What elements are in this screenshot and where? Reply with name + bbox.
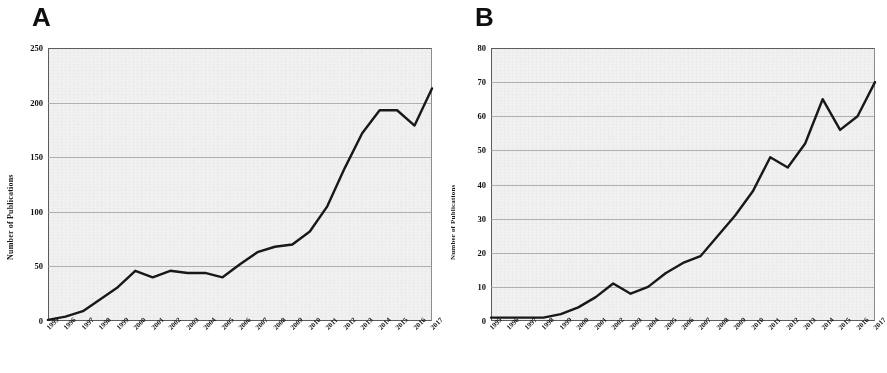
panel-a-y-axis-title: Number of Publications xyxy=(6,110,15,260)
panel-b-y-tick-20: 20 xyxy=(443,248,486,258)
panel-a-label: A xyxy=(32,2,51,33)
panel-b-series-line xyxy=(491,48,875,321)
panel-a-y-tick-50: 50 xyxy=(0,261,43,271)
panel-a-y-tick-200: 200 xyxy=(0,98,43,108)
panel-b: B Number of Publications 010203040506070… xyxy=(443,0,886,373)
panel-b-y-tick-0: 0 xyxy=(443,316,486,326)
panel-b-plot xyxy=(491,48,875,321)
panel-a-y-tick-250: 250 xyxy=(0,43,43,53)
panel-b-y-tick-40: 40 xyxy=(443,180,486,190)
panel-a-plot xyxy=(48,48,432,321)
panel-a-y-tick-150: 150 xyxy=(0,152,43,162)
panel-b-y-tick-70: 70 xyxy=(443,77,486,87)
panel-b-y-tick-60: 60 xyxy=(443,111,486,121)
panel-a: A Number of Publications 050100150200250… xyxy=(0,0,443,373)
panel-b-label: B xyxy=(475,2,494,33)
panel-a-y-tick-0: 0 xyxy=(0,316,43,326)
panel-a-y-tick-100: 100 xyxy=(0,207,43,217)
panel-b-y-tick-50: 50 xyxy=(443,145,486,155)
panel-b-y-axis-title: Number of Publications xyxy=(449,120,457,260)
panel-a-series-line xyxy=(48,48,432,321)
publications-figure: A Number of Publications 050100150200250… xyxy=(0,0,887,373)
panel-b-y-tick-10: 10 xyxy=(443,282,486,292)
panel-b-y-tick-30: 30 xyxy=(443,214,486,224)
panel-b-y-tick-80: 80 xyxy=(443,43,486,53)
